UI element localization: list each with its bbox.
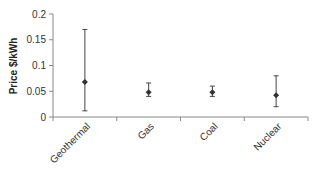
diamond-marker-icon [273,92,279,98]
data-point-nuclear [273,76,279,107]
y-tick-label: 0.1 [32,60,46,71]
x-category-label: Coal [197,121,219,143]
y-tick-label: 0.15 [27,34,47,45]
diamond-marker-icon [82,79,88,85]
y-axis: 00.050.10.150.2 [27,9,53,123]
diamond-marker-icon [209,89,215,95]
y-axis-label: Price $/kWh [8,38,19,95]
data-point-coal [209,86,215,96]
x-category-label: Gas [135,121,156,142]
x-category-label: Geothermal [48,121,93,166]
x-category-label: Nuclear [251,120,284,153]
y-tick-label: 0.05 [27,86,47,97]
x-axis: GeothermalGasCoalNuclear [48,117,308,165]
data-point-geothermal [82,29,88,110]
price-chart: 00.050.10.150.2 GeothermalGasCoalNuclear… [0,0,318,177]
y-tick-label: 0.2 [32,9,46,20]
data-series [82,29,279,110]
diamond-marker-icon [146,89,152,95]
data-point-gas [146,83,152,96]
y-tick-label: 0 [40,112,46,123]
